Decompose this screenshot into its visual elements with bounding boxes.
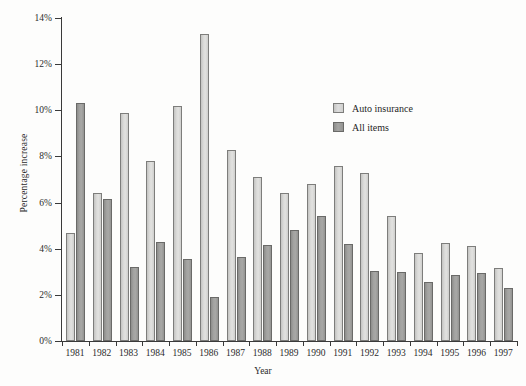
bar-group [171,18,198,341]
x-tick-mark [62,341,63,346]
y-tick-label: 14% [6,13,52,23]
bar-group [412,18,439,341]
bar-group [305,18,332,341]
legend-swatch-icon [333,103,344,113]
bar-chart: Percentage increase 0%2%4%6%8%10%12%14% … [0,0,526,386]
bar [504,288,513,341]
y-tick-label: 4% [6,244,52,254]
x-tick-mark [437,341,438,346]
bar-group [278,18,305,341]
y-tick-label: 6% [6,198,52,208]
legend-item[interactable]: Auto insurance [333,100,413,116]
bar [183,259,192,341]
bar [173,106,182,341]
bar [424,282,433,341]
x-tick-mark [89,341,90,346]
plot-area [62,18,517,341]
bar-group [332,18,359,341]
x-tick-label: 1997 [483,348,523,358]
x-tick-mark [463,341,464,346]
legend-swatch-icon [333,122,344,132]
x-tick-mark [517,341,518,346]
bar-group [91,18,118,341]
bar-group [118,18,145,341]
x-tick-mark [490,341,491,346]
bar [307,184,316,341]
x-axis-title: Year [0,366,526,376]
x-tick-mark [356,341,357,346]
x-tick-mark [276,341,277,346]
bar [156,242,165,341]
bar-group [251,18,278,341]
bar [317,216,326,341]
bar-group [439,18,466,341]
x-tick-mark [196,341,197,346]
bar-group [225,18,252,341]
bar-group [64,18,91,341]
x-tick-mark [169,341,170,346]
bar [370,271,379,341]
bar [360,173,369,341]
bar [477,273,486,341]
bar [146,161,155,341]
bar-group [385,18,412,341]
bar [397,272,406,341]
bar-group [492,18,519,341]
bar [467,246,476,341]
bar [120,113,129,341]
bar [263,245,272,341]
bar [290,230,299,341]
bar [253,177,262,341]
x-tick-mark [383,341,384,346]
bar [344,244,353,341]
y-tick-label: 0% [6,336,52,346]
bar [103,199,112,341]
x-tick-mark [410,341,411,346]
bar [200,34,209,341]
y-tick-label: 10% [6,105,52,115]
legend-item[interactable]: All items [333,119,413,135]
legend-label: All items [352,122,389,133]
bar [130,267,139,341]
bar-group [358,18,385,341]
bar [93,193,102,341]
chart-legend: Auto insuranceAll items [333,100,413,138]
bar-group [198,18,225,341]
x-tick-mark [303,341,304,346]
bar [66,233,75,341]
x-tick-mark [223,341,224,346]
legend-label: Auto insurance [352,103,413,114]
bar [387,216,396,341]
y-tick-label: 8% [6,151,52,161]
bar-group [465,18,492,341]
x-tick-mark [249,341,250,346]
bar [414,253,423,341]
bar [334,166,343,341]
bar [76,103,85,341]
bar [441,243,450,341]
y-tick-label: 12% [6,59,52,69]
bar [494,268,503,341]
x-axis-line [61,341,518,342]
y-tick-label: 2% [6,290,52,300]
bar-group [144,18,171,341]
bar [210,297,219,341]
bar [237,257,246,341]
bar [451,275,460,341]
x-tick-mark [330,341,331,346]
bar [280,193,289,341]
x-tick-mark [142,341,143,346]
bar [227,150,236,341]
x-tick-mark [116,341,117,346]
